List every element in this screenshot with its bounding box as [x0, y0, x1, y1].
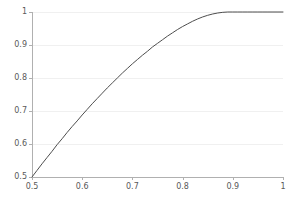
y-tick-label: 1 — [22, 7, 27, 16]
y-tick-label: 0.6 — [14, 139, 27, 148]
x-tick-label: 0.6 — [62, 182, 102, 191]
y-tick-label: 0.9 — [14, 40, 27, 49]
y-tick-label: 0.8 — [14, 73, 27, 82]
series-line — [32, 12, 283, 177]
x-tick-label: 0.8 — [163, 182, 203, 191]
x-tick-label: 0.9 — [213, 182, 253, 191]
gridlines — [32, 13, 283, 145]
y-tick-label: 0.7 — [14, 106, 27, 115]
chart-container: 0.50.60.70.80.91 0.50.60.70.80.91 — [0, 0, 292, 203]
data-series — [32, 12, 283, 177]
x-tick-label: 0.5 — [12, 182, 52, 191]
axis-ticks — [29, 13, 284, 181]
plot-area — [0, 0, 292, 203]
y-tick-label: 0.5 — [14, 172, 27, 181]
x-tick-label: 1 — [263, 182, 292, 191]
x-tick-label: 0.7 — [112, 182, 152, 191]
